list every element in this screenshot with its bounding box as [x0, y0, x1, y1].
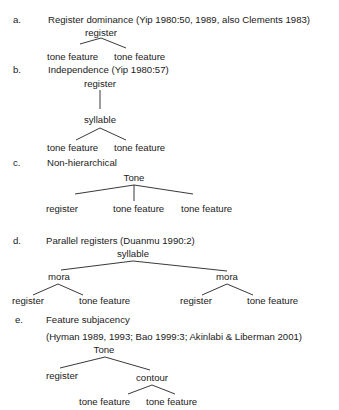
- tree-node-leaf: register: [46, 203, 78, 214]
- tree-node-leaf: tone feature: [79, 295, 130, 306]
- tree-node-root: register: [84, 78, 116, 89]
- tree-node-leaf: tone feature: [114, 51, 165, 62]
- tree-node-leaf: tone feature: [79, 396, 130, 407]
- tree-node-leaf: register: [12, 295, 44, 306]
- tree-node-mora: mora: [216, 271, 238, 282]
- example-title: Independence (Yip 1980:57): [48, 64, 169, 75]
- tree-node-root: register: [85, 27, 117, 38]
- tree-node-leaf: tone feature: [47, 51, 98, 62]
- tree-node-mid: contour: [136, 372, 168, 383]
- example-label: e.: [15, 314, 23, 325]
- example-label: a.: [13, 14, 21, 25]
- tree-node-mora: mora: [48, 271, 70, 282]
- tree-node-leaf: register: [180, 295, 212, 306]
- example-label: b.: [13, 64, 21, 75]
- tree-node-left: register: [46, 370, 78, 381]
- example-label: d.: [13, 235, 21, 246]
- tree-node-root: Tone: [94, 344, 115, 355]
- tree-node-leaf: tone feature: [247, 295, 298, 306]
- tree-node-leaf: tone feature: [47, 142, 98, 153]
- example-title: Non-hierarchical: [47, 157, 117, 168]
- example-title: Parallel registers (Duanmu 1990:2): [46, 235, 195, 246]
- tree-node-root: syllable: [117, 248, 149, 259]
- tree-node-leaf: tone feature: [146, 396, 197, 407]
- example-citation: (Hyman 1989, 1993; Bao 1999:3; Akinlabi …: [46, 331, 302, 342]
- example-title: Feature subjacency: [46, 314, 130, 325]
- tree-node-leaf: tone feature: [113, 203, 164, 214]
- tree-node-leaf: tone feature: [114, 142, 165, 153]
- example-title: Register dominance (Yip 1980:50, 1989, a…: [48, 14, 310, 25]
- example-label: c.: [13, 157, 20, 168]
- tree-node-mid: syllable: [84, 114, 116, 125]
- tree-node-leaf: tone feature: [181, 203, 232, 214]
- tree-node-root: Tone: [124, 172, 145, 183]
